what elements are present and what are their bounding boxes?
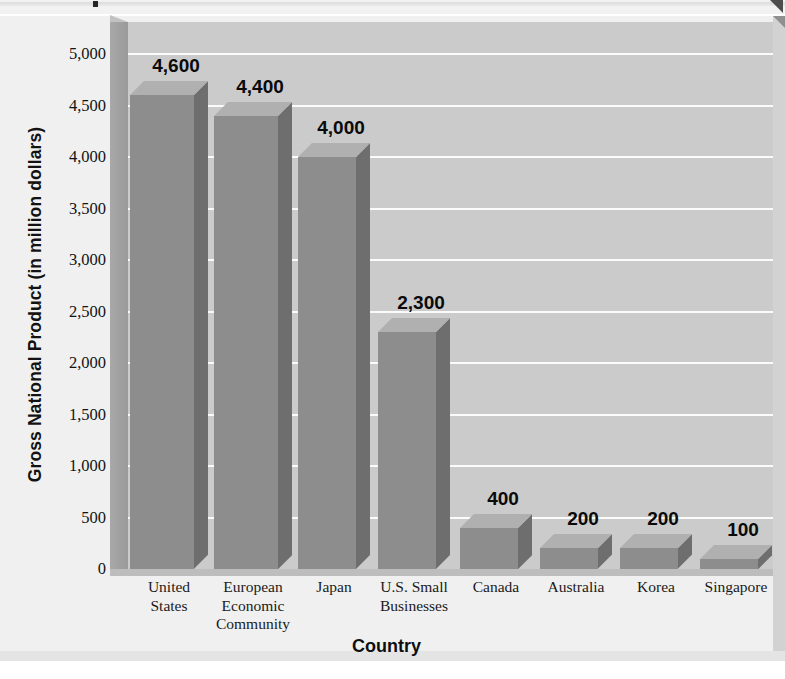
x-axis-tick-label-line: Canada — [451, 578, 541, 597]
y-axis-tick-label: 3,500 — [30, 201, 106, 217]
x-axis-tick-label: Singapore — [691, 578, 781, 597]
x-axis-tick-label-line: States — [121, 597, 217, 616]
x-axis-tick-label-line: Singapore — [691, 578, 781, 597]
axis-wall-3d — [110, 22, 128, 574]
x-axis-tick-label-line: Australia — [531, 578, 621, 597]
window-top-strip — [0, 0, 785, 14]
bar-3d-faces — [540, 534, 612, 569]
bar-value-label: 200 — [554, 508, 612, 530]
bar-3d-faces — [620, 534, 692, 569]
bar-3d-faces — [378, 318, 450, 569]
y-axis-tick-label: 4,000 — [30, 149, 106, 165]
x-axis-tick-label: Korea — [611, 578, 701, 597]
bar — [460, 514, 532, 569]
bar-3d-faces — [298, 143, 370, 569]
x-axis-tick-label: Japan — [289, 578, 379, 597]
bar-3d-faces — [130, 81, 208, 569]
x-axis-tick-label-line: Community — [205, 615, 301, 634]
x-axis-tick-label-line: Businesses — [369, 597, 459, 616]
x-axis-tick-label: Canada — [451, 578, 541, 597]
bar-value-label: 400 — [474, 488, 532, 510]
x-axis-tick-label: U.S. SmallBusinesses — [369, 578, 459, 615]
bar-value-label: 2,300 — [392, 292, 450, 314]
plot-area: 4,6004,4004,0002,300400200200100 — [128, 22, 773, 569]
y-axis-tick-label: 0 — [30, 561, 106, 577]
y-axis-tick-label: 3,000 — [30, 252, 106, 268]
x-axis-tick-label-line: Korea — [611, 578, 701, 597]
bar-3d-faces — [460, 514, 532, 569]
x-axis-tick-label-line: United — [121, 578, 217, 597]
plot-floor-3d — [110, 569, 773, 576]
bar — [378, 318, 450, 569]
bar-value-label: 200 — [634, 508, 692, 530]
frame-corner-icon — [773, 16, 785, 28]
bar-side-face — [436, 318, 450, 569]
y-axis-tick-label: 1,500 — [30, 407, 106, 423]
triangle-corner-icon — [770, 0, 783, 13]
x-axis-tick-label: EuropeanEconomicCommunity — [205, 578, 301, 634]
x-axis-tick-label-line: Economic — [205, 597, 301, 616]
bar-side-face — [278, 102, 292, 569]
bar-3d-faces — [700, 545, 772, 569]
bar-side-face — [356, 143, 370, 569]
x-axis-title: Country — [0, 636, 773, 657]
bar-value-label: 4,000 — [312, 117, 370, 139]
chart-page: Gross National Product (in million dolla… — [0, 0, 785, 679]
y-axis-tick-label: 4,500 — [30, 98, 106, 114]
y-axis-tick-label: 2,500 — [30, 304, 106, 320]
bar — [214, 102, 292, 569]
bar-value-label: 4,400 — [228, 76, 292, 98]
bar-side-face — [194, 81, 208, 569]
x-axis-tick-label: UnitedStates — [121, 578, 217, 615]
x-axis-tick-label-line: U.S. Small — [369, 578, 459, 597]
frame-right-edge — [773, 16, 785, 661]
bar — [130, 81, 208, 569]
gridline — [128, 53, 773, 55]
bar — [298, 143, 370, 569]
axis-wall-top-face — [110, 15, 128, 22]
chart-frame: Gross National Product (in million dolla… — [0, 16, 785, 661]
x-axis-tick-label-line: Japan — [289, 578, 379, 597]
x-axis-tick-label: Australia — [531, 578, 621, 597]
bar-value-label: 100 — [714, 519, 772, 541]
y-axis-tick-label: 5,000 — [30, 46, 106, 62]
y-axis-tick-labels: 5,0004,5004,0003,5003,0002,5002,0001,500… — [30, 16, 106, 661]
bar — [700, 545, 772, 569]
y-axis-tick-label: 2,000 — [30, 355, 106, 371]
x-axis-tick-label-line: European — [205, 578, 301, 597]
bar — [620, 534, 692, 569]
y-axis-tick-label: 500 — [30, 510, 106, 526]
bar-3d-faces — [214, 102, 292, 569]
bar-value-label: 4,600 — [144, 55, 208, 77]
bar — [540, 534, 612, 569]
top-strip-rule — [0, 2, 785, 6]
x-axis-tick-labels: UnitedStatesEuropeanEconomicCommunityJap… — [128, 578, 773, 634]
top-strip-marker-icon — [93, 1, 98, 7]
y-axis-tick-label: 1,000 — [30, 458, 106, 474]
